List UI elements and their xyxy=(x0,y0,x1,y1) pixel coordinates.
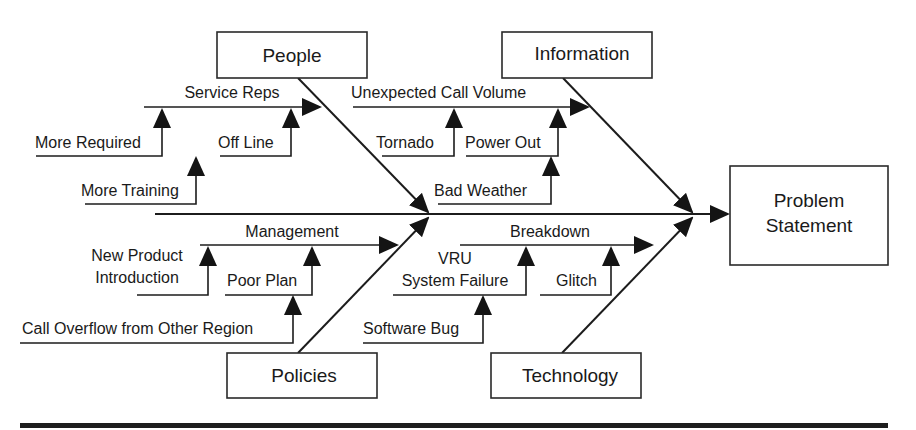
power-out-label: Power Out xyxy=(465,134,541,151)
software-bug-label: Software Bug xyxy=(363,320,459,337)
off-line-label: Off Line xyxy=(218,134,274,151)
glitch-label: Glitch xyxy=(556,272,597,289)
vru-label-line2: System Failure xyxy=(402,272,509,289)
more-training-label: More Training xyxy=(81,182,179,199)
bad-weather-label: Bad Weather xyxy=(434,182,528,199)
breakdown-label: Breakdown xyxy=(510,223,590,240)
policies-label: Policies xyxy=(271,365,336,386)
call-overflow-label: Call Overflow from Other Region xyxy=(22,320,253,337)
service-reps-label: Service Reps xyxy=(184,84,279,101)
problem-statement-box: Problem Statement xyxy=(730,166,888,265)
new-product-label-line2: Introduction xyxy=(95,269,179,286)
information-label: Information xyxy=(534,43,629,64)
fishbone-diagram: Problem Statement People Service Reps Mo… xyxy=(0,0,916,430)
problem-statement-line2: Statement xyxy=(766,215,853,236)
new-product-label-line1: New Product xyxy=(91,247,183,264)
tornado-label: Tornado xyxy=(376,134,434,151)
vru-label-line1: VRU xyxy=(438,250,472,267)
problem-statement-line1: Problem xyxy=(774,190,845,211)
information-diagonal-arrow xyxy=(563,78,692,212)
unexpected-call-volume-label: Unexpected Call Volume xyxy=(351,84,526,101)
bottom-rule-divider xyxy=(20,423,888,428)
management-label: Management xyxy=(245,223,339,240)
poor-plan-label: Poor Plan xyxy=(227,272,297,289)
technology-label: Technology xyxy=(522,365,619,386)
category-policies: Policies Management New Product Introduc… xyxy=(20,218,428,398)
category-technology: Technology Breakdown VRU System Failure … xyxy=(363,218,692,398)
people-label: People xyxy=(262,45,321,66)
category-people: People Service Reps More Required Off Li… xyxy=(35,32,428,212)
more-required-label: More Required xyxy=(35,134,141,151)
